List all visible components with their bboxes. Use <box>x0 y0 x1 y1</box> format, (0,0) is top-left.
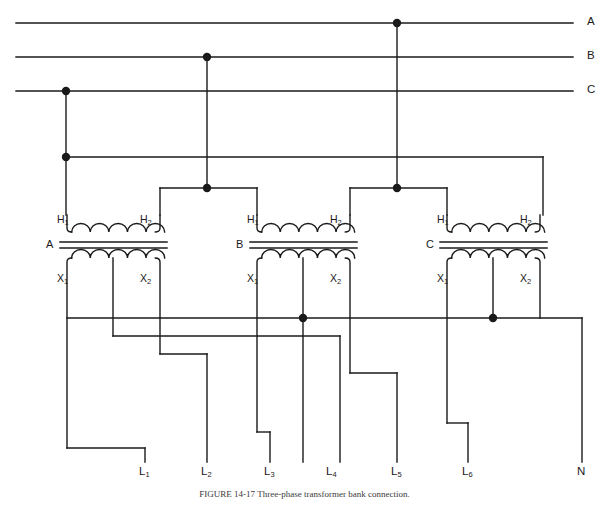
output-label-l3: L3 <box>264 466 275 478</box>
dot-phase-a-tap <box>393 19 401 27</box>
transformer-a-h1-label: H1 <box>57 214 69 226</box>
dot-center-tap-b <box>299 314 307 322</box>
transformer-a-x2-lead <box>155 258 160 354</box>
output-label-l5: L5 <box>391 466 402 478</box>
supply-label-c: C <box>587 84 595 96</box>
transformer-c-x2-lead <box>535 258 540 318</box>
dot-delta-node-b <box>203 184 211 192</box>
transformer-b-h1-label: H1 <box>247 214 259 226</box>
output-label-l1: L1 <box>139 466 150 478</box>
dot-bus-c-junction <box>62 153 70 161</box>
transformer-c-core-label: C <box>426 239 434 250</box>
dot-delta-node-a <box>393 184 401 192</box>
transformer-a-x1-lead <box>67 258 72 448</box>
junction-dot-group <box>62 19 497 322</box>
transformer-a-x2-label: X2 <box>140 273 151 285</box>
transformer-a-x1-label: X1 <box>57 273 68 285</box>
output-label-l2: L2 <box>201 466 212 478</box>
figure-canvas: A B C A B C H1 H2 X1 X2 H1 H2 X1 X2 H1 H… <box>0 0 609 506</box>
output-label-l4: L4 <box>326 466 337 478</box>
transformer-a-core-label: A <box>46 239 53 250</box>
transformer-c-secondary-coil <box>452 250 545 259</box>
circuit-schematic <box>0 0 609 506</box>
dot-phase-c-tap <box>62 87 70 95</box>
output-label-l6: L6 <box>462 466 473 478</box>
dot-center-tap-c <box>489 314 497 322</box>
transformer-c-x1-label: X1 <box>437 273 448 285</box>
wire-group <box>16 23 582 462</box>
supply-label-a: A <box>587 16 595 28</box>
transformer-b-core-label: B <box>236 239 243 250</box>
transformer-b-x1-label: X1 <box>247 273 258 285</box>
figure-caption: FIGURE 14-17 Three-phase transformer ban… <box>0 489 609 506</box>
transformer-a-secondary-coil <box>72 250 165 259</box>
transformer-a-h2-label: H2 <box>140 214 152 226</box>
transformer-b-x2-lead <box>345 258 350 373</box>
transformer-c-h2-label: H2 <box>520 214 532 226</box>
transformer-b-x2-label: X2 <box>330 273 341 285</box>
supply-label-b: B <box>587 50 595 62</box>
output-label-n: N <box>577 466 585 478</box>
transformer-b-h2-label: H2 <box>330 214 342 226</box>
transformer-c-x2-label: X2 <box>520 273 531 285</box>
transformer-c-h1-label: H1 <box>437 214 449 226</box>
transformer-b-secondary-coil <box>262 250 355 259</box>
dot-phase-b-tap <box>203 53 211 61</box>
